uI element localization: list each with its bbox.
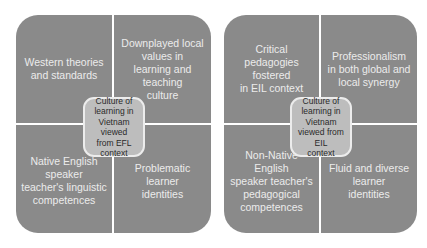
quadrant-text: Downplayed local values in learning and … — [118, 37, 207, 102]
quadrant-text: Native English speaker teacher's linguis… — [20, 155, 108, 207]
center-text: Culture of learning in Vietnam viewed fr… — [292, 96, 350, 159]
eil-diagram: Critical pedagogies fostered in EIL cont… — [224, 15, 417, 233]
center-concept: Culture of learning in Vietnam viewed fr… — [290, 97, 352, 157]
quadrant-text: Western theories and standards — [24, 56, 103, 82]
efl-diagram: Western theories and standards Downplaye… — [16, 15, 211, 233]
quadrant-text: Professionalism in both global and local… — [328, 50, 411, 89]
center-concept: Culture of learning in Vietnam viewed fr… — [83, 97, 145, 157]
quadrant-text: Problematic learner identities — [135, 162, 190, 201]
center-text: Culture of learning in Vietnam viewed fr… — [85, 96, 143, 159]
quadrant-text: Fluid and diverse learner identities — [329, 162, 409, 201]
quadrant-text: Critical pedagogies fostered in EIL cont… — [228, 43, 315, 95]
